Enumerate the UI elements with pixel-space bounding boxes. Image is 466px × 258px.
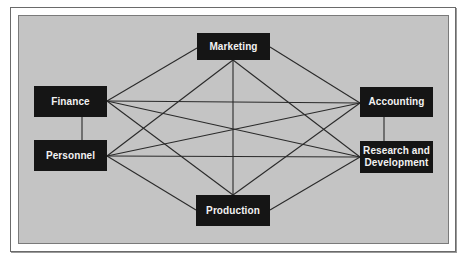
edge-personnel-marketing [107, 60, 233, 156]
node-personnel: Personnel [34, 140, 107, 171]
edge-finance-marketing [107, 48, 197, 101]
node-research-and-development: Research and Development [360, 141, 433, 173]
node-production: Production [196, 195, 270, 226]
node-accounting: Accounting [360, 87, 433, 117]
edge-personnel-production [107, 156, 196, 210]
node-marketing: Marketing [197, 33, 270, 60]
node-finance: Finance [34, 86, 107, 117]
edge-production-research [270, 157, 360, 210]
edge-marketing-accounting [270, 47, 360, 103]
